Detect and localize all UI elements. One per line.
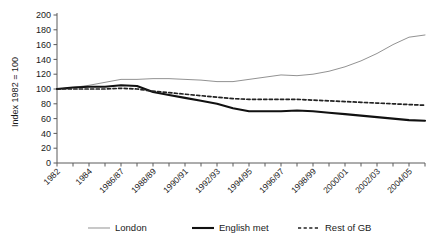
legend-label-london: London (115, 222, 147, 233)
y-axis: 020406080100120140160180200 (36, 10, 57, 168)
x-tick-label: 1984 (73, 166, 94, 187)
y-tick-label: 0 (46, 158, 51, 168)
y-tick-label: 40 (41, 129, 51, 139)
x-axis: 198219841986/871988/891990/911992/931994… (41, 163, 425, 195)
legend-label-rest-of-gb: Rest of GB (325, 222, 371, 233)
y-tick-label: 100 (36, 84, 51, 94)
y-tick-label: 200 (36, 10, 51, 20)
legend-label-english-met: English met (219, 222, 269, 233)
x-tick-label: 1990/91 (161, 166, 190, 195)
data-series-group (57, 35, 425, 121)
y-tick-label: 180 (36, 25, 51, 35)
line-chart-figure: 020406080100120140160180200 198219841986… (0, 0, 448, 245)
y-tick-label: 120 (36, 69, 51, 79)
series-line-rest-of-gb (57, 88, 425, 105)
x-tick-label: 1994/95 (225, 166, 254, 195)
y-tick-label: 60 (41, 114, 51, 124)
y-tick-label: 140 (36, 55, 51, 65)
y-tick-label: 20 (41, 143, 51, 153)
x-tick-label: 2000/01 (321, 166, 350, 195)
y-tick-label: 160 (36, 40, 51, 50)
y-axis-title: Index 1982 = 100 (10, 57, 20, 127)
x-tick-label: 1982 (41, 166, 62, 187)
x-tick-label: 1998/99 (289, 166, 318, 195)
x-tick-label: 2004/05 (385, 166, 414, 195)
series-line-london (57, 35, 425, 89)
x-tick-label: 1992/93 (193, 166, 222, 195)
x-tick-label: 2002/03 (353, 166, 382, 195)
chart-canvas: 020406080100120140160180200 198219841986… (0, 0, 448, 245)
y-tick-label: 80 (41, 99, 51, 109)
x-tick-label: 1996/97 (257, 166, 286, 195)
x-tick-label: 1986/87 (97, 166, 126, 195)
chart-legend: LondonEnglish metRest of GB (88, 222, 371, 233)
x-tick-label: 1988/89 (129, 166, 158, 195)
